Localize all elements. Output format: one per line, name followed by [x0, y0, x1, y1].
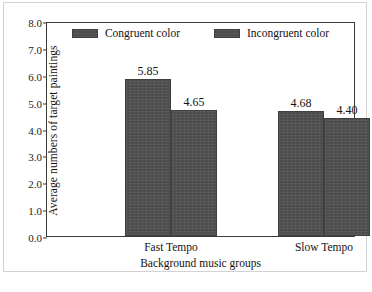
bar-value-label: 4.68 — [291, 97, 312, 110]
y-axis-tick-label: 4.0 — [28, 125, 42, 136]
bar — [171, 110, 217, 236]
bar-chart-figure: Background music groups Average numbers … — [0, 0, 372, 292]
y-axis-tick-label: 5.0 — [28, 98, 42, 109]
y-axis-tick-label: 6.0 — [28, 71, 42, 82]
bar-value-label: 4.40 — [337, 104, 358, 117]
y-axis-tick-label: 1.0 — [28, 206, 42, 217]
plot-area: 5.854.654.684.40 Fast TempoSlow Tempo — [47, 23, 354, 236]
bar — [278, 111, 324, 236]
x-axis-tick-label: Fast Tempo — [144, 240, 198, 254]
y-axis-tick-mark — [43, 238, 47, 239]
bar-value-label: 4.65 — [184, 96, 205, 109]
y-axis-tick-label: 8.0 — [28, 18, 42, 29]
bar — [125, 79, 171, 236]
x-axis-title: Background music groups — [46, 256, 355, 270]
y-axis-tick-label: 0.0 — [28, 233, 42, 244]
plot-frame: Average numbers of target paintings 8.07… — [46, 22, 355, 237]
x-axis-tick-label: Slow Tempo — [295, 240, 353, 254]
bar — [324, 118, 370, 236]
y-axis-tick-label: 7.0 — [28, 44, 42, 55]
bar-value-label: 5.85 — [138, 65, 159, 78]
y-axis-tick-label: 3.0 — [28, 152, 42, 163]
y-axis-tick-label: 2.0 — [28, 179, 42, 190]
